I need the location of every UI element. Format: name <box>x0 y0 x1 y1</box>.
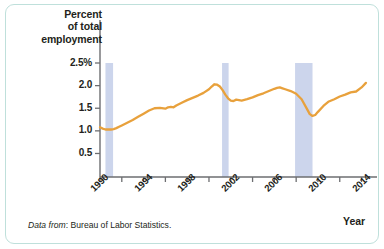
recession-bands-group <box>105 63 312 177</box>
recession-band <box>222 63 229 177</box>
y-tick-label: 1.0 <box>48 124 92 135</box>
source-note-text: : Bureau of Labor Statistics. <box>66 220 172 230</box>
y-tick-label: 2.5% <box>48 57 92 68</box>
data-line-group <box>100 83 366 130</box>
x-axis-title: Year <box>343 215 365 227</box>
source-note-prefix: Data from <box>28 220 66 230</box>
recession-band <box>295 63 312 177</box>
data-series-line <box>100 83 366 130</box>
y-tick-label: 1.5 <box>48 102 92 113</box>
chart-figure: Percent of total employment 2.5%2.01.51.… <box>0 0 384 249</box>
recession-band <box>105 63 113 177</box>
y-axis-title-line-2: of total <box>30 20 102 32</box>
y-tick-label: 0.5 <box>48 147 92 158</box>
y-axis-title-line-3: employment <box>30 33 102 45</box>
y-tick-label: 2.0 <box>48 79 92 90</box>
source-note: Data from: Bureau of Labor Statistics. <box>28 220 171 230</box>
y-axis-title-line-1: Percent <box>30 8 102 20</box>
y-axis-title: Percent of total employment <box>30 8 102 45</box>
